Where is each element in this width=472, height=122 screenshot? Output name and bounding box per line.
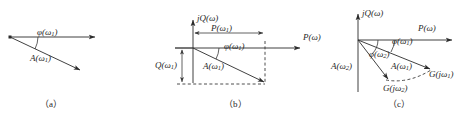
- panel-b-caption: （b）: [224, 100, 247, 109]
- panel-b-graphics: [175, 20, 300, 84]
- panel-c-magnitude1-label: A(ω1): [391, 62, 412, 72]
- panel-c-point1-label: G(jω1): [429, 70, 454, 80]
- panel-a-phase-arc: [35, 37, 38, 49]
- panel-a-caption: （a）: [40, 100, 62, 109]
- panel-b-real-part-label: P(ω1): [211, 24, 232, 34]
- panel-b-phase-arc: [216, 48, 219, 59]
- panel-b-magnitude-label: A(ω1): [203, 62, 224, 72]
- frequency-response-vector-figure: φ(ω1) A(ω1) （a） jQ(ω) P(ω) P(ω1) Q(ω1) φ…: [0, 0, 472, 122]
- panel-c-phase2-label: φ(ω2): [369, 50, 390, 60]
- panel-c-real-axis-label: P(ω): [418, 24, 436, 33]
- panel-b-imag-part-label: Q(ω1): [155, 61, 177, 71]
- panel-c-phase1-label: φ(ω1): [392, 37, 413, 47]
- panel-a-phase-label: φ(ω1): [37, 28, 58, 38]
- panel-c-point2-label: G(jω2): [383, 84, 408, 94]
- panel-c-magnitude2-label: A(ω2): [331, 62, 352, 72]
- panel-c-caption: （c）: [388, 100, 410, 109]
- panel-c-imaginary-axis-label: jQ(ω): [362, 9, 383, 18]
- panel-b-imaginary-axis-label: jQ(ω): [197, 14, 218, 23]
- panel-a-magnitude-label: A(ω1): [30, 54, 51, 64]
- panel-b-phase-label: φ(ω1): [224, 42, 245, 52]
- panel-a-graphics: [10, 37, 95, 70]
- panel-b-real-axis-label: P(ω): [303, 33, 321, 42]
